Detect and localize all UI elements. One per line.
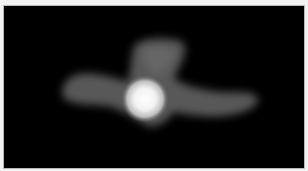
micrograph-panel <box>3 5 305 169</box>
bright-spot <box>121 75 169 123</box>
cell-image <box>4 6 304 168</box>
